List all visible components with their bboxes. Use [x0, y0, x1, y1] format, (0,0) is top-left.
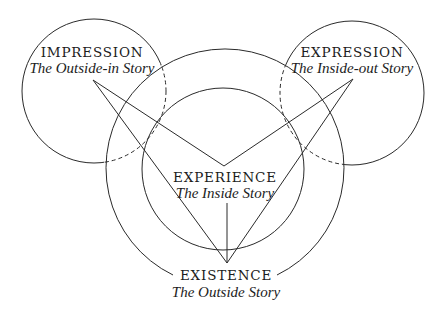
expression-label: EXPRESSION The Inside-out Story [291, 44, 414, 76]
impression-title: IMPRESSION [41, 44, 144, 60]
expression-circle [280, 21, 424, 165]
experience-title: EXPERIENCE [173, 169, 277, 185]
expression-subtitle: The Inside-out Story [291, 60, 414, 76]
experience-subtitle: The Inside Story [176, 185, 275, 201]
impression-circle [22, 19, 166, 163]
existence-title: EXISTENCE [180, 267, 272, 283]
impression-subtitle: The Outside-in Story [30, 60, 155, 76]
existence-subtitle: The Outside Story [172, 284, 281, 300]
expression-title: EXPRESSION [300, 44, 403, 60]
impression-label: IMPRESSION The Outside-in Story [30, 44, 155, 76]
existence-label: EXISTENCE The Outside Story [172, 267, 281, 300]
expression-to-experience-line [224, 79, 353, 166]
four-stories-diagram: IMPRESSION The Outside-in Story EXPRESSI… [0, 0, 444, 318]
impression-to-experience-line [93, 80, 224, 166]
existence-circle [106, 49, 344, 275]
experience-label: EXPERIENCE The Inside Story [173, 169, 277, 201]
